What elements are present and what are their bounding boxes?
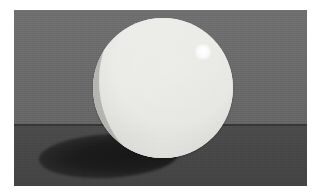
sphere xyxy=(93,18,233,158)
image-canvas xyxy=(0,0,318,196)
sphere-scene xyxy=(14,10,307,186)
sphere-bounce-light xyxy=(107,130,219,158)
specular-highlight xyxy=(195,44,211,60)
